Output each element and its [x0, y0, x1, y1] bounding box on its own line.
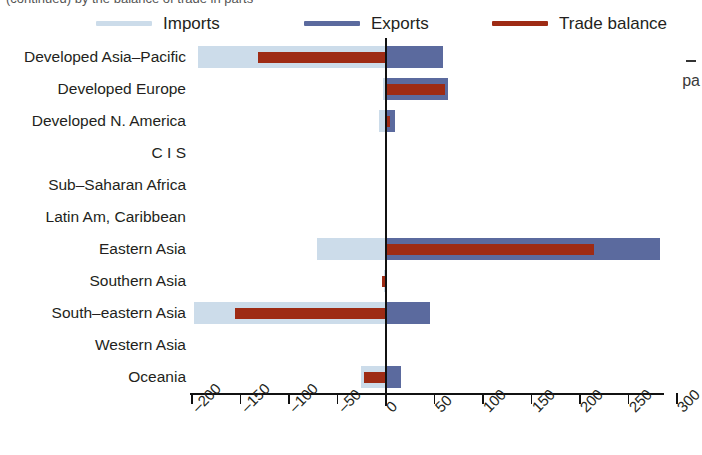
- cropped-header-text: (continued) by the balance of trade in p…: [0, 0, 702, 10]
- legend-item-exports: Exports: [304, 11, 429, 35]
- bar-exports: [385, 46, 443, 68]
- legend-item-trade-balance: Trade balance: [492, 11, 667, 35]
- chart-row: Western Asia: [0, 329, 702, 361]
- chart-row: Developed Asia–Pacific: [0, 41, 702, 73]
- zero-axis-line: [385, 38, 387, 406]
- bar-trade-balance: [258, 52, 385, 63]
- chart-row: Latin Am, Caribbean: [0, 201, 702, 233]
- bar-trade-balance: [385, 84, 445, 95]
- bar-group: [0, 41, 702, 73]
- chart-row: Developed Europe: [0, 73, 702, 105]
- chart-row: Southern Asia: [0, 265, 702, 297]
- legend-swatch-imports: [96, 21, 152, 26]
- bar-imports: [317, 238, 385, 260]
- bar-trade-balance: [385, 244, 594, 255]
- bar-group: [0, 137, 702, 169]
- bar-group: [0, 73, 702, 105]
- legend-swatch-trade-balance: [492, 21, 548, 26]
- cropped-header-text-value: (continued) by the balance of trade in p…: [6, 0, 253, 6]
- bar-trade-balance: [364, 372, 385, 383]
- bar-group: [0, 201, 702, 233]
- bar-exports: [385, 302, 430, 324]
- bar-group: [0, 169, 702, 201]
- legend-label-exports: Exports: [371, 15, 429, 32]
- legend-label-trade-balance: Trade balance: [559, 15, 667, 32]
- legend-label-imports: Imports: [163, 15, 220, 32]
- legend-item-imports: Imports: [96, 11, 220, 35]
- bar-group: [0, 233, 702, 265]
- chart-row: Eastern Asia: [0, 233, 702, 265]
- chart-row: C I S: [0, 137, 702, 169]
- chart-plot-area: Developed Asia–PacificDeveloped EuropeDe…: [0, 38, 702, 393]
- chart-legend: Imports Exports Trade balance: [0, 11, 702, 35]
- chart-row: Sub–Saharan Africa: [0, 169, 702, 201]
- legend-swatch-exports: [304, 21, 360, 26]
- bar-group: [0, 265, 702, 297]
- chart-row: Developed N. America: [0, 105, 702, 137]
- bar-group: [0, 297, 702, 329]
- chart-row: South–eastern Asia: [0, 297, 702, 329]
- bar-trade-balance: [235, 308, 385, 319]
- bar-exports: [385, 366, 401, 388]
- bar-group: [0, 105, 702, 137]
- x-axis-tick-label: 0: [383, 398, 400, 415]
- bar-group: [0, 329, 702, 361]
